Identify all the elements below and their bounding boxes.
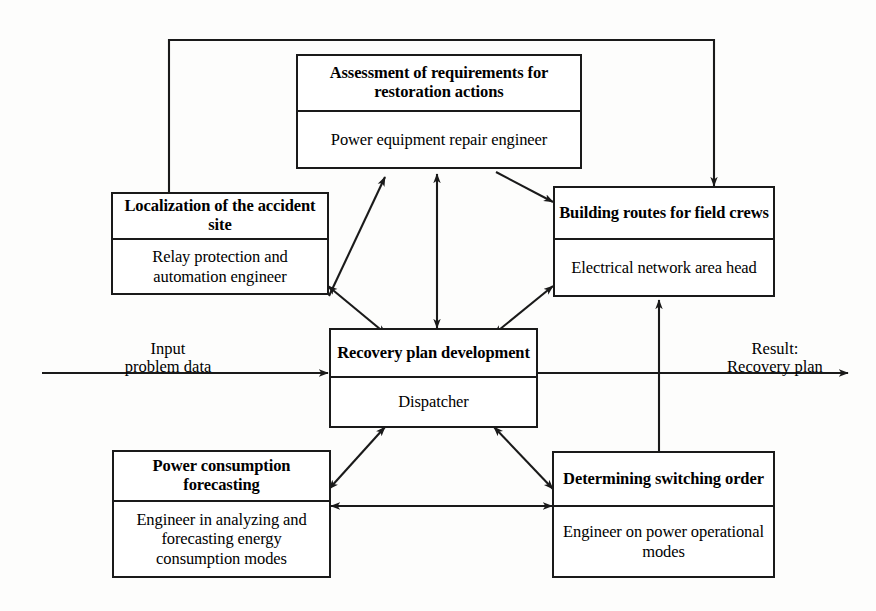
edge-assessment-to-building-routes — [496, 172, 553, 202]
node-assessment-role: Power equipment repair engineer — [298, 112, 580, 167]
node-power-consumption[interactable]: Power consumption forecasting Engineer i… — [112, 450, 331, 578]
node-switching-order-role: Engineer on power operational modes — [554, 507, 773, 576]
node-switching-order[interactable]: Determining switching order Engineer on … — [552, 451, 775, 578]
edge-localization-to-assessment — [329, 177, 385, 296]
node-localization-title: Localization of the accident site — [113, 194, 327, 240]
result-label-line2: Recovery plan — [700, 358, 850, 376]
edge-localization-recovery-bidirectional — [328, 286, 386, 334]
result-label: Result: Recovery plan — [700, 340, 850, 377]
node-power-consumption-title: Power consumption forecasting — [114, 452, 329, 502]
node-localization[interactable]: Localization of the accident site Relay … — [111, 192, 329, 295]
node-recovery-plan-role: Dispatcher — [331, 378, 536, 426]
node-power-consumption-role: Engineer in analyzing and forecasting en… — [114, 502, 329, 576]
input-label: Input problem data — [78, 340, 258, 377]
edge-recovery-switching-order-bidirectional — [494, 427, 553, 489]
node-switching-order-title: Determining switching order — [554, 453, 773, 507]
input-label-line2: problem data — [78, 358, 258, 376]
diagram-canvas: Assessment of requirements for restorati… — [0, 0, 876, 611]
edge-recovery-power-consumption-bidirectional — [329, 427, 385, 489]
node-building-routes-title: Building routes for field crews — [555, 188, 773, 240]
edge-building-routes-recovery-bidirectional — [494, 286, 553, 334]
node-recovery-plan-title: Recovery plan development — [331, 330, 536, 378]
result-label-line1: Result: — [700, 340, 850, 358]
node-recovery-plan[interactable]: Recovery plan development Dispatcher — [329, 328, 538, 428]
node-building-routes-role: Electrical network area head — [555, 240, 773, 295]
node-assessment[interactable]: Assessment of requirements for restorati… — [296, 54, 582, 169]
node-building-routes[interactable]: Building routes for field crews Electric… — [553, 186, 775, 297]
node-localization-role: Relay protection and automation engineer — [113, 240, 327, 293]
node-assessment-title: Assessment of requirements for restorati… — [298, 56, 580, 112]
input-label-line1: Input — [78, 340, 258, 358]
